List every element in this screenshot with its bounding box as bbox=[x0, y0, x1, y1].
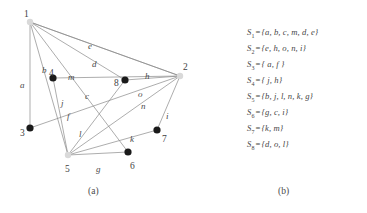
graph-panel: abcmdehonifjlkg12345678 (a) bbox=[0, 0, 215, 213]
node-label-7: 7 bbox=[162, 135, 167, 145]
set-row: S1={a, b, c, m, d, e} bbox=[247, 28, 367, 44]
set-row: S6={g, c, i} bbox=[247, 108, 367, 124]
node-label-4: 4 bbox=[49, 69, 54, 79]
graph-edge-l bbox=[68, 80, 125, 155]
graph-node-6 bbox=[124, 148, 131, 155]
set-row: S2={e, h, o, n, i} bbox=[247, 44, 367, 60]
set-members: { a, f } bbox=[261, 59, 284, 69]
sets-panel: S1={a, b, c, m, d, e}S2={e, h, o, n, i}S… bbox=[215, 0, 367, 213]
node-label-6: 6 bbox=[130, 162, 135, 172]
set-members: {e, h, o, n, i} bbox=[261, 43, 306, 53]
edge-label-d: d bbox=[92, 60, 97, 69]
edge-label-b: b bbox=[42, 66, 47, 75]
set-row: S7={k, m} bbox=[247, 124, 367, 140]
graph-nodes bbox=[26, 19, 183, 158]
graph-edge-j bbox=[53, 78, 68, 155]
set-members: {b, j, l, n, k, g} bbox=[261, 91, 313, 101]
node-label-3: 3 bbox=[20, 129, 25, 139]
edge-label-a: a bbox=[20, 81, 25, 90]
set-members: { j, h} bbox=[261, 75, 282, 85]
graph-node-8 bbox=[121, 76, 128, 83]
edge-label-f: f bbox=[67, 112, 70, 121]
set-members: {k, m} bbox=[261, 123, 283, 133]
node-label-5: 5 bbox=[65, 165, 70, 175]
set-row: S5={b, j, l, n, k, g} bbox=[247, 92, 367, 108]
sets-list: S1={a, b, c, m, d, e}S2={e, h, o, n, i}S… bbox=[247, 28, 367, 156]
node-label-8: 8 bbox=[114, 79, 119, 89]
panel-a-caption: (a) bbox=[88, 186, 99, 196]
edge-label-h: h bbox=[145, 72, 150, 81]
graph-node-1 bbox=[27, 19, 33, 25]
set-members: {a, b, c, m, d, e} bbox=[261, 27, 318, 37]
graph-edges bbox=[30, 22, 180, 155]
edge-label-o: o bbox=[138, 90, 143, 99]
edge-label-j: j bbox=[61, 99, 64, 108]
graph-node-2 bbox=[177, 73, 183, 79]
figure-root: abcmdehonifjlkg12345678 (a) S1={a, b, c,… bbox=[0, 0, 367, 213]
edge-label-l: l bbox=[79, 130, 82, 139]
graph-canvas bbox=[0, 0, 215, 185]
edge-label-c: c bbox=[85, 92, 89, 101]
edge-label-k: k bbox=[130, 135, 134, 144]
node-label-1: 1 bbox=[24, 10, 29, 20]
set-row: S4={ j, h} bbox=[247, 76, 367, 92]
set-row: S3={ a, f } bbox=[247, 60, 367, 76]
panel-b-caption: (b) bbox=[278, 186, 289, 196]
graph-node-5 bbox=[65, 152, 71, 158]
graph-node-3 bbox=[26, 124, 33, 131]
edge-label-n: n bbox=[141, 102, 146, 111]
set-members: {g, c, i} bbox=[261, 107, 288, 117]
edge-label-g: g bbox=[96, 165, 101, 174]
graph-node-7 bbox=[153, 126, 160, 133]
node-label-2: 2 bbox=[183, 63, 188, 73]
set-members: {d, o, l} bbox=[261, 139, 288, 149]
set-row: S8={d, o, l} bbox=[247, 140, 367, 156]
edge-label-e: e bbox=[88, 42, 92, 51]
edge-label-i: i bbox=[166, 112, 169, 121]
edge-label-m: m bbox=[68, 73, 75, 82]
